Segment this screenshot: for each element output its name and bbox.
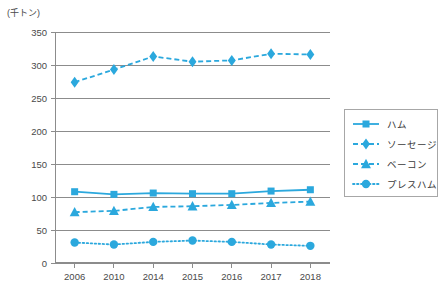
circle-marker-icon bbox=[228, 238, 236, 246]
series-1 bbox=[71, 48, 315, 87]
legend-item[interactable]: ソーセージ bbox=[345, 134, 437, 154]
y-axis-tick-label: 100 bbox=[31, 192, 47, 203]
legend-marker bbox=[351, 176, 381, 192]
legend-item[interactable]: ハム bbox=[345, 114, 437, 134]
x-axis-tick-label: 2010 bbox=[103, 271, 124, 282]
square-marker-icon bbox=[189, 190, 196, 197]
diamond-marker-icon bbox=[71, 77, 79, 88]
x-axis-tick-label: 2006 bbox=[64, 271, 85, 282]
y-axis-tick-label: 50 bbox=[36, 225, 47, 236]
square-marker-icon bbox=[110, 191, 117, 198]
legend-item-label: ベーコン bbox=[387, 157, 427, 171]
x-axis-tick-label: 2016 bbox=[221, 271, 242, 282]
y-axis-tick-label: 200 bbox=[31, 126, 47, 137]
x-axis-tick-label: 2017 bbox=[261, 271, 282, 282]
diamond-marker-icon bbox=[149, 51, 157, 62]
series-0 bbox=[71, 186, 314, 198]
legend-item-label: ソーセージ bbox=[387, 137, 437, 151]
legend-item-label: ハム bbox=[387, 117, 407, 131]
y-axis-tick-label: 0 bbox=[42, 258, 47, 269]
x-axis-tick-label: 2014 bbox=[143, 271, 164, 282]
x-axis-tick-label: 2018 bbox=[300, 271, 321, 282]
square-marker-icon bbox=[268, 188, 275, 195]
chart-legend: ハムソーセージベーコンプレスハム bbox=[344, 109, 438, 197]
legend-marker bbox=[351, 156, 381, 172]
square-marker-icon bbox=[363, 121, 370, 128]
circle-marker-icon bbox=[188, 236, 196, 244]
y-axis-tick-label: 350 bbox=[31, 27, 47, 38]
line-chart: (千トン) 0501001502002503003502006201020142… bbox=[0, 0, 444, 294]
diamond-marker-icon bbox=[306, 49, 314, 60]
square-marker-icon bbox=[150, 190, 157, 197]
y-axis-tick-label: 150 bbox=[31, 159, 47, 170]
circle-marker-icon bbox=[70, 238, 78, 246]
legend-item[interactable]: ベーコン bbox=[345, 154, 437, 174]
circle-marker-icon bbox=[149, 238, 157, 246]
diamond-marker-icon bbox=[228, 55, 236, 66]
circle-marker-icon bbox=[267, 240, 275, 248]
legend-marker bbox=[351, 136, 381, 152]
diamond-marker-icon bbox=[362, 139, 370, 150]
circle-marker-icon bbox=[110, 240, 118, 248]
diamond-marker-icon bbox=[267, 48, 275, 59]
square-marker-icon bbox=[307, 186, 314, 193]
diamond-marker-icon bbox=[189, 56, 197, 67]
series-2 bbox=[70, 196, 316, 216]
circle-marker-icon bbox=[362, 180, 370, 188]
legend-marker bbox=[351, 116, 381, 132]
circle-marker-icon bbox=[306, 242, 314, 250]
legend-item-label: プレスハム bbox=[387, 177, 437, 191]
x-axis-tick-label: 2015 bbox=[182, 271, 203, 282]
square-marker-icon bbox=[71, 188, 78, 195]
y-axis-tick-label: 250 bbox=[31, 93, 47, 104]
y-axis-tick-label: 300 bbox=[31, 60, 47, 71]
diamond-marker-icon bbox=[110, 64, 118, 75]
square-marker-icon bbox=[228, 190, 235, 197]
legend-item[interactable]: プレスハム bbox=[345, 174, 437, 194]
series-3 bbox=[70, 236, 314, 250]
